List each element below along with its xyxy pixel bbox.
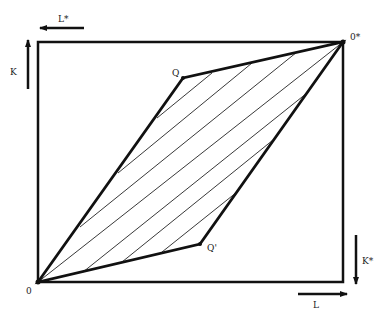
point-q-marker	[181, 76, 185, 80]
hatch-line	[80, 52, 297, 227]
origin-home-marker	[36, 280, 41, 285]
hatch-line	[157, 73, 212, 118]
point-q-prime-label: Q'	[207, 243, 217, 253]
origin-foreign-marker	[341, 40, 346, 45]
hatch-line	[118, 63, 252, 173]
l-label: L	[313, 300, 319, 310]
l-star-label: L*	[58, 14, 69, 24]
k-label: K	[10, 67, 17, 77]
point-q-label: Q	[172, 68, 179, 78]
edgeworth-box-diagram: L* K K* L 0 0* Q Q'	[0, 0, 384, 323]
k-star-label: K*	[362, 256, 374, 266]
origin-home-label: 0	[26, 286, 32, 296]
origin-foreign-label: 0*	[350, 32, 361, 42]
point-q-prime-marker	[198, 242, 202, 246]
